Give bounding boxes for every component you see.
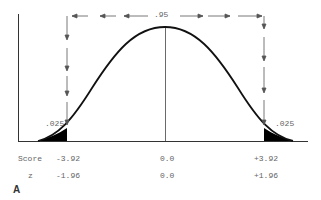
z-right: +1.96	[254, 171, 278, 180]
z-center: 0.0	[160, 171, 174, 180]
z-left: -1.96	[56, 171, 80, 180]
score-right: +3.92	[254, 154, 278, 163]
z-row-label: z	[28, 171, 33, 180]
score-row-label: Score	[18, 154, 42, 163]
center-probability-label: .95	[154, 10, 168, 19]
score-center: 0.0	[160, 154, 174, 163]
normal-curve-diagram	[0, 0, 321, 200]
figure-label: A	[13, 184, 20, 195]
score-left: -3.92	[56, 154, 80, 163]
left-tail-label: .025	[45, 119, 64, 128]
right-tail-label: .025	[275, 119, 294, 128]
